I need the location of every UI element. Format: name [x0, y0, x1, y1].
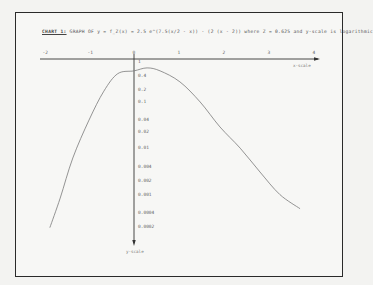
y-tick-label: 0.002: [138, 178, 152, 183]
y-axis-label: y-scale: [126, 249, 144, 254]
y-tick-label: 0.0002: [138, 224, 155, 229]
y-tick-label: 1: [138, 59, 141, 64]
y-tick-label: 0.001: [138, 192, 152, 197]
x-tick-label: 2: [223, 50, 226, 55]
x-axis-arrow-icon: [314, 57, 320, 60]
x-tick-label: 0: [133, 50, 136, 55]
x-tick-label: -2: [43, 50, 49, 55]
x-tick-label: 1: [178, 50, 181, 55]
y-tick-label: 0.1: [138, 99, 146, 104]
y-tick-label: 0.01: [138, 145, 149, 150]
y-tick-label: 0.04: [138, 117, 149, 122]
x-tick-labels: -2-101234: [43, 50, 316, 55]
y-tick-label: 0.004: [138, 164, 152, 169]
y-tick-label: 0.4: [138, 73, 146, 78]
x-tick-label: -1: [88, 50, 94, 55]
y-axis-arrow-icon: [132, 240, 135, 246]
y-tick-label: 0.02: [138, 129, 149, 134]
x-tick-label: 4: [313, 50, 316, 55]
data-curve: [50, 68, 300, 228]
y-tick-labels: 10.40.20.10.040.020.010.0040.0020.0010.0…: [138, 59, 155, 229]
x-tick-label: 3: [268, 50, 271, 55]
y-tick-label: 0.2: [138, 87, 146, 92]
x-axis-label: x-scale: [293, 63, 311, 68]
y-tick-label: 0.0004: [138, 210, 155, 215]
